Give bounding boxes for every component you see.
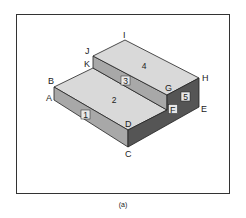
figure-caption: (a) <box>0 201 246 208</box>
vertex-label-K: K <box>84 59 90 69</box>
vertex-label-F: F <box>170 105 176 115</box>
vertex-label-E: E <box>201 104 207 114</box>
vertex-label-H: H <box>202 73 209 83</box>
face-label-1: 1 <box>83 110 88 120</box>
vertex-label-A: A <box>46 93 52 103</box>
face-label-2: 2 <box>112 95 117 105</box>
vertex-label-G: G <box>165 83 172 93</box>
face-label-4: 4 <box>142 61 147 71</box>
vertex-label-C: C <box>125 149 132 159</box>
vertex-label-B: B <box>48 76 54 86</box>
staircase-isometric-diagram: 1 2 3 4 5 A B C D E F G H I J K <box>0 0 246 218</box>
vertex-label-J: J <box>85 46 90 56</box>
face-label-3: 3 <box>123 76 128 86</box>
vertex-label-I: I <box>123 30 126 40</box>
vertex-label-D: D <box>125 119 132 129</box>
face-label-5: 5 <box>183 92 188 102</box>
